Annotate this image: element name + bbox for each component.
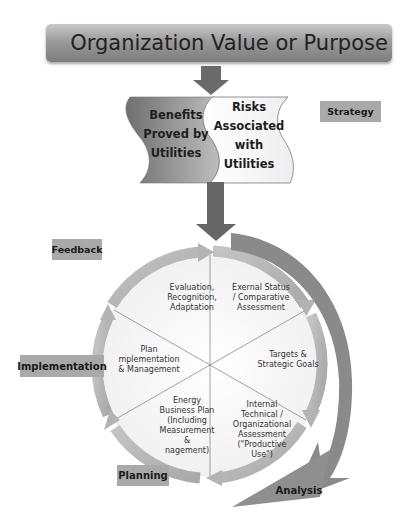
risks-line: Utilities [212, 155, 286, 174]
segment-evaluation: Evaluation, Recognition, Adaptation [160, 283, 224, 313]
segment-energy-plan: Energy Business Plan (Including Measurem… [156, 396, 218, 456]
segment-internal-assessment: Internal Technical / Organizational Asse… [226, 400, 298, 460]
risks-text: Risks Associated with Utilities [212, 98, 286, 174]
segment-external-status: Exernal Status / Comparative Assessment [226, 283, 296, 313]
down-arrow-icon [193, 66, 229, 95]
risks-line: Associated [212, 117, 286, 136]
strategy-label: Strategy [320, 101, 381, 122]
benefits-line: Proved by [140, 125, 212, 144]
segment-plan-implementation: Plan mplementation & Management [114, 345, 184, 375]
analysis-label: Analysis [264, 480, 334, 500]
risks-line: with [212, 136, 286, 155]
benefits-line: Utilities [140, 144, 212, 163]
benefits-text: Benefits Proved by Utilities [140, 106, 212, 163]
segment-targets: Targets & Strategic Goals [256, 350, 320, 370]
large-down-arrow-icon [196, 182, 236, 241]
feedback-label: Feedback [52, 239, 102, 260]
organization-value-banner: Organization Value or Purpose [46, 24, 392, 62]
benefits-line: Benefits [140, 106, 212, 125]
implementation-label: Implementation [20, 355, 104, 377]
banner-title: Organization Value or Purpose [70, 31, 388, 55]
planning-label: Planning [117, 465, 169, 486]
risks-line: Risks [212, 98, 286, 117]
